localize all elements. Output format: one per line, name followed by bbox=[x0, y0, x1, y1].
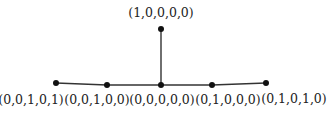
node-dot bbox=[104, 82, 110, 88]
node-label: (0,1,0,1,0) bbox=[261, 91, 326, 106]
node-dot bbox=[209, 82, 215, 88]
node-dot bbox=[158, 82, 164, 88]
node-dot bbox=[263, 80, 269, 86]
tree-diagram: (1,0,0,0,0)(0,0,1,0,1)(0,0,1,0,0)(0,0,0,… bbox=[0, 0, 331, 113]
edge bbox=[56, 83, 107, 85]
node-label: (0,0,0,0,0) bbox=[129, 92, 194, 107]
edge bbox=[212, 83, 266, 85]
node-label: (0,1,0,0,0) bbox=[195, 92, 260, 107]
node-label: (0,0,1,0,0) bbox=[64, 92, 129, 107]
edges bbox=[56, 29, 266, 85]
node-dot bbox=[53, 80, 59, 86]
labels: (1,0,0,0,0)(0,0,1,0,1)(0,0,1,0,0)(0,0,0,… bbox=[0, 5, 327, 107]
node-label: (0,0,1,0,1) bbox=[0, 92, 64, 107]
node-label: (1,0,0,0,0) bbox=[128, 5, 193, 20]
node-dot bbox=[158, 26, 164, 32]
